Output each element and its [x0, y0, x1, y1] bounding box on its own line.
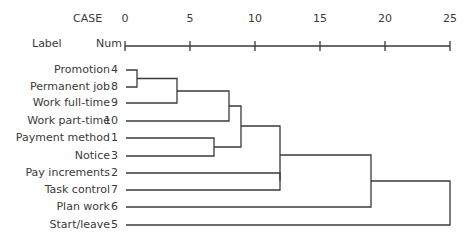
dendrogram-branches	[126, 70, 450, 225]
axis	[125, 41, 450, 51]
dendrogram-plot	[0, 0, 471, 243]
